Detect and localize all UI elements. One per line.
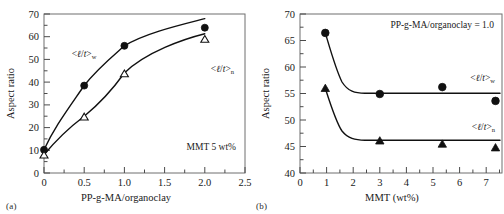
data-point (201, 24, 208, 31)
y-tick-label: 50 (29, 54, 40, 65)
plot-b-x-ticks (300, 167, 500, 173)
x-tick-label: 6 (457, 177, 462, 188)
annotation-mmt-content: MMT 5 wt% (187, 142, 237, 152)
x-tick-label: 1.0 (118, 177, 131, 188)
plot-a-x-ticks (44, 167, 245, 173)
data-point (81, 82, 88, 89)
svg-text:<ℓ/t>n: <ℓ/t>n (472, 122, 496, 133)
svg-text:<ℓ/t>n: <ℓ/t>n (211, 64, 235, 75)
x-tick-label: 0 (297, 177, 302, 188)
x-tick-label: 4 (404, 177, 410, 188)
x-axis-title-b: MMT (wt%) (365, 192, 419, 204)
series-n-label-a: <ℓ/t>n (211, 64, 235, 75)
plot-b-svg: 40 45 50 55 60 65 70 0 1 2 3 4 5 6 7 MMT… (252, 0, 504, 214)
series-n-curve-b (325, 88, 500, 140)
y-tick-label: 30 (29, 99, 40, 110)
series-n-curve-a (44, 34, 205, 155)
series-w-curve-b (325, 33, 500, 93)
data-point (438, 140, 446, 147)
series-n-markers-a (40, 36, 209, 159)
data-point (491, 144, 499, 151)
x-tick-label: 1.5 (158, 177, 171, 188)
x-tick-label: 3 (377, 177, 382, 188)
series-w-markers-a (41, 24, 209, 153)
x-tick-label: 1 (324, 177, 329, 188)
y-tick-label: 45 (285, 141, 296, 152)
data-point (376, 90, 384, 98)
y-tick-label: 40 (285, 168, 296, 179)
x-tick-label: 2 (351, 177, 356, 188)
y-tick-label: 60 (285, 62, 296, 73)
x-tick-label: 0.5 (78, 177, 91, 188)
y-axis-title-a: Aspect ratio (5, 68, 16, 119)
y-tick-label: 10 (29, 145, 40, 156)
y-tick-label: 20 (29, 122, 40, 133)
plot-b-x-tick-labels: 0 1 2 3 4 5 6 7 (297, 177, 488, 188)
y-tick-label: 0 (34, 168, 39, 179)
svg-text:<ℓ/t>w: <ℓ/t>w (72, 49, 97, 60)
data-point (322, 29, 330, 37)
x-tick-label: 2.5 (238, 177, 251, 188)
chart-panel-a: 0 10 20 30 40 50 60 70 0 0.5 1.0 1.5 2.0… (0, 0, 252, 214)
y-tick-label: 60 (29, 31, 40, 42)
plot-b-y-ticks (300, 14, 306, 173)
series-w-label-b: <ℓ/t>w (470, 73, 495, 84)
plot-a-y-tick-labels: 0 10 20 30 40 50 60 70 (29, 9, 40, 179)
data-point (492, 97, 500, 105)
data-point (121, 42, 128, 49)
x-tick-label: 5 (430, 177, 435, 188)
data-point (439, 83, 447, 91)
x-axis-title-a: PP-g-MA/organoclay (81, 192, 172, 203)
x-tick-label: 7 (484, 177, 489, 188)
x-tick-label: 2.0 (198, 177, 211, 188)
plot-a-x-tick-labels: 0 0.5 1.0 1.5 2.0 2.5 (41, 177, 251, 188)
svg-text:<ℓ/t>w: <ℓ/t>w (470, 73, 495, 84)
y-tick-label: 50 (285, 115, 296, 126)
y-tick-label: 40 (29, 77, 40, 88)
plot-a-svg: 0 10 20 30 40 50 60 70 0 0.5 1.0 1.5 2.0… (0, 0, 252, 214)
y-tick-label: 65 (285, 35, 296, 46)
panel-label-b: (b) (256, 201, 267, 211)
plot-b-y-tick-labels: 40 45 50 55 60 65 70 (285, 9, 296, 179)
y-axis-title-b: Aspect ratio (260, 68, 271, 119)
y-tick-label: 55 (285, 88, 296, 99)
y-tick-label: 70 (29, 9, 40, 20)
series-n-label-b: <ℓ/t>n (472, 122, 496, 133)
data-point (321, 84, 329, 91)
series-w-label-a: <ℓ/t>w (72, 49, 97, 60)
figure-container: 0 10 20 30 40 50 60 70 0 0.5 1.0 1.5 2.0… (0, 0, 504, 214)
data-point (201, 36, 209, 43)
y-tick-label: 70 (285, 9, 296, 20)
panel-label-a: (a) (6, 201, 17, 211)
x-tick-label: 0 (41, 177, 46, 188)
annotation-ratio-content: PP-g-MA/organoclay = 1.0 (390, 20, 494, 30)
chart-panel-b: 40 45 50 55 60 65 70 0 1 2 3 4 5 6 7 MMT… (252, 0, 504, 214)
